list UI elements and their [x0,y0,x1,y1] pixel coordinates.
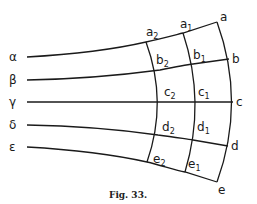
label-e: e [218,183,225,197]
label-d1: d1 [197,120,210,136]
curve-beta [27,59,229,80]
label-a1: a1 [180,17,192,33]
label-beta: β [9,73,17,87]
label-a: a [220,10,227,24]
label-epsilon: ε [9,140,16,154]
label-b2: b2 [156,53,169,69]
label-d2: d2 [162,120,175,136]
label-a2: a2 [146,25,158,41]
label-delta: δ [9,118,16,132]
label-c: c [236,95,243,109]
figure-diagram: α β γ δ ε a b c d e a1 b1 c1 d1 e1 a2 b2… [0,0,257,204]
label-b1: b1 [193,48,206,64]
label-d: d [231,139,239,153]
label-e1: e1 [188,157,200,173]
label-c2: c2 [164,85,176,101]
label-gamma: γ [9,95,16,109]
label-c1: c1 [198,85,210,101]
label-e2: e2 [153,152,165,168]
label-alpha: α [9,50,17,64]
figure-caption: Fig. 33. [109,190,147,200]
label-b: b [232,52,240,66]
